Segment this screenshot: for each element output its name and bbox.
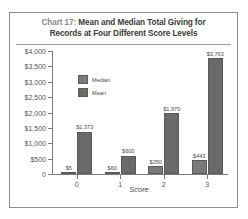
bar-value-label: $1,970 [163, 106, 180, 112]
x-axis-tick [120, 175, 121, 179]
title-divider [16, 44, 231, 45]
chart-title-prefix: Chart 17: [42, 18, 77, 27]
y-axis-tick [48, 97, 52, 98]
y-axis-tick [48, 174, 52, 175]
bar-value-label: $3,763 [207, 51, 224, 57]
bar-value-label: $443 [193, 153, 205, 159]
x-axis-line [52, 174, 228, 175]
chart-legend: MedianMean [78, 75, 110, 101]
legend-label: Mean [92, 90, 106, 96]
y-axis-tick [48, 82, 52, 83]
y-axis-label: $4,000 [25, 48, 46, 55]
plot-area: 0$500$1,000$1,500$2,000$2,500$3,000$3,50… [52, 51, 226, 175]
bar-median-score-1 [105, 172, 120, 174]
legend-swatch-icon [78, 75, 88, 84]
y-axis-label: 0 [42, 171, 46, 178]
chart-title-line-1: Chart 17: Mean and Median Total Giving f… [10, 17, 237, 28]
bar-mean-score-1 [121, 156, 136, 174]
x-axis-tick [164, 175, 165, 179]
bar-value-label: $250 [150, 159, 162, 165]
y-axis-tick [48, 51, 52, 52]
bar-value-label: $1,373 [76, 124, 93, 130]
y-axis-line [52, 51, 53, 175]
bar-value-label: $600 [122, 148, 134, 154]
legend-item-median: Median [78, 75, 110, 84]
bar-median-score-0 [61, 172, 76, 174]
legend-item-mean: Mean [78, 88, 110, 97]
bar-mean-score-2 [164, 113, 179, 174]
y-axis-tick [48, 113, 52, 114]
y-axis-label: $2,500 [25, 94, 46, 101]
bar-mean-score-3 [208, 58, 223, 174]
chart-title-line-2: Records at Four Different Score Levels [10, 28, 237, 39]
y-axis-tick [48, 159, 52, 160]
y-axis-label: $500 [30, 155, 46, 162]
legend-swatch-icon [78, 88, 88, 97]
x-axis-title: Score [52, 185, 226, 194]
bar-mean-score-0 [77, 132, 92, 174]
bar-median-score-2 [148, 166, 163, 174]
y-axis-label: $1,000 [25, 140, 46, 147]
y-axis-tick [48, 128, 52, 129]
bar-value-label: $60 [108, 165, 117, 171]
chart-title: Chart 17: Mean and Median Total Giving f… [10, 17, 237, 39]
bar-value-label: $5 [66, 165, 72, 171]
y-axis-tick [48, 66, 52, 67]
y-axis-label: $3,000 [25, 78, 46, 85]
y-axis-label: $2,000 [25, 109, 46, 116]
x-axis-tick [77, 175, 78, 179]
x-axis-tick [207, 175, 208, 179]
legend-label: Median [92, 77, 110, 83]
chart-figure: Chart 17: Mean and Median Total Giving f… [9, 12, 238, 208]
y-axis-label: $3,500 [25, 63, 46, 70]
bar-median-score-3 [192, 160, 207, 174]
y-axis-label: $1,500 [25, 124, 46, 131]
y-axis-tick [48, 143, 52, 144]
chart-title-text-1: Mean and Median Total Giving for [78, 18, 205, 27]
